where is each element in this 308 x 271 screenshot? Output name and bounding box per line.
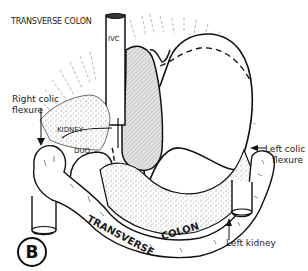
anatomy-diagram: TRANSVERSE COLON IVC Right colic flexure… — [0, 0, 308, 271]
pancreas — [122, 46, 163, 170]
diagram-drawing — [0, 0, 308, 271]
ivc-vessel — [106, 15, 125, 125]
panel-letter-badge: B — [17, 237, 47, 267]
label-right-colic-flexure-2: flexure — [12, 106, 43, 115]
label-left-colic-flexure-2: flexure — [272, 156, 303, 165]
label-duo: DUO — [74, 148, 90, 155]
label-left-kidney: Left kidney — [226, 239, 276, 248]
label-ivc: IVC — [108, 36, 120, 43]
label-transverse-colon-title: TRANSVERSE COLON — [11, 18, 92, 26]
label-right-colic-flexure-1: Right colic — [12, 95, 59, 104]
label-kidney: KIDNEY — [57, 127, 83, 134]
label-left-colic-flexure-1: Left colic — [265, 145, 305, 154]
